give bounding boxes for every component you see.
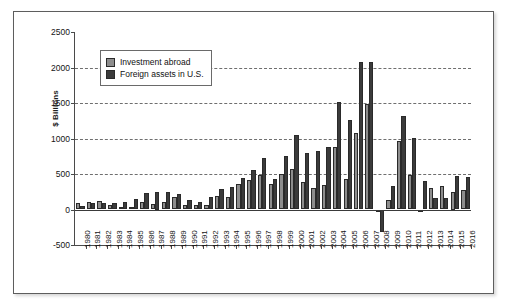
x-tick-label: 2009 (393, 230, 402, 248)
bar (284, 156, 288, 210)
x-tick-label: 2014 (446, 230, 455, 248)
legend-swatch-icon-foreign-assets (106, 70, 115, 79)
bar (177, 194, 181, 210)
bar (166, 192, 170, 209)
bar (102, 203, 106, 210)
bar (209, 197, 213, 209)
bar (230, 187, 234, 209)
bar-group (75, 32, 86, 245)
bar (144, 193, 148, 209)
y-tick-label: -500 (53, 240, 70, 250)
bar (412, 138, 416, 210)
bar-group (225, 32, 236, 245)
bar-group (460, 32, 471, 245)
bar-group (278, 32, 289, 245)
bar (380, 210, 384, 233)
y-tick-label: 1500 (51, 98, 70, 108)
x-tick-label: 1991 (200, 230, 209, 248)
y-tick-mark (71, 245, 75, 246)
bar-group (236, 32, 247, 245)
x-tick-label: 1984 (125, 230, 134, 248)
bar-group (268, 32, 279, 245)
x-tick-label: 2013 (436, 230, 445, 248)
x-tick-label: 1988 (168, 230, 177, 248)
chart-figure-frame: $ Billions -50005001000150020002500 1980… (13, 11, 494, 294)
x-tick-label: 1985 (136, 230, 145, 248)
bar (369, 62, 373, 210)
bar (219, 189, 223, 209)
bar (251, 170, 255, 209)
x-axis-labels: 1980198119821983198419851986198719881989… (74, 248, 470, 292)
bar (444, 198, 448, 209)
x-tick-label: 1993 (222, 230, 231, 248)
x-tick-label: 2011 (414, 231, 423, 248)
bar (348, 120, 352, 210)
bar (326, 147, 330, 210)
x-tick-label: 1994 (232, 230, 241, 248)
x-tick-label: 2007 (372, 230, 381, 248)
y-tick-label: 1000 (51, 134, 70, 144)
bar (187, 200, 191, 210)
x-tick-label: 2012 (425, 230, 434, 248)
bar-group (439, 32, 450, 245)
x-tick-label: 1995 (243, 230, 252, 248)
x-tick-label: 2008 (382, 230, 391, 248)
bar (123, 202, 127, 210)
x-tick-label: 1986 (147, 230, 156, 248)
legend-swatch-icon-investment-abroad (106, 58, 115, 67)
x-tick-label: 1987 (157, 230, 166, 248)
x-tick-label: 2015 (457, 230, 466, 248)
chart-legend: Investment abroad Foreign assets in U.S. (100, 50, 212, 86)
x-tick-label: 1989 (179, 230, 188, 248)
x-tick-label: 2000 (297, 230, 306, 248)
x-tick-label: 1983 (115, 230, 124, 248)
legend-item-investment-abroad: Investment abroad (106, 57, 204, 67)
bar-group (343, 32, 354, 245)
bar-group (332, 32, 343, 245)
x-tick-label: 2005 (350, 230, 359, 248)
y-tick-label: 0 (65, 205, 70, 215)
x-tick-label: 1981 (93, 230, 102, 248)
bar (155, 192, 159, 210)
legend-label-foreign-assets: Foreign assets in U.S. (120, 69, 204, 79)
bar-group (450, 32, 461, 245)
bar (455, 176, 459, 210)
bar-group (300, 32, 311, 245)
bar (134, 199, 138, 209)
bar-group (257, 32, 268, 245)
bar (337, 102, 341, 210)
bar (305, 153, 309, 209)
x-tick-label: 1999 (286, 230, 295, 248)
bar (241, 178, 245, 210)
bar-group (417, 32, 428, 245)
bar-group (353, 32, 364, 245)
bar (198, 202, 202, 210)
x-tick-label: 1982 (104, 230, 113, 248)
x-tick-label: 2001 (307, 230, 316, 248)
x-tick-label: 2002 (318, 230, 327, 248)
x-tick-label: 1992 (211, 230, 220, 248)
x-tick-label: 1996 (254, 230, 263, 248)
y-tick-label: 500 (56, 169, 70, 179)
bar-group (428, 32, 439, 245)
x-tick-label: 2003 (329, 230, 338, 248)
bar (423, 181, 427, 210)
y-tick-label: 2000 (51, 63, 70, 73)
x-tick-label: 2016 (468, 230, 477, 248)
bar (401, 116, 405, 210)
bar (273, 179, 277, 210)
legend-item-foreign-assets: Foreign assets in U.S. (106, 69, 204, 79)
x-tick-label: 1997 (264, 230, 273, 248)
bar-group (214, 32, 225, 245)
bar-group (310, 32, 321, 245)
x-tick-label: 1998 (275, 230, 284, 248)
x-tick-label: 2006 (361, 230, 370, 248)
bar-group (407, 32, 418, 245)
bar-group (364, 32, 375, 245)
bar (466, 177, 470, 210)
x-tick-label: 1980 (83, 230, 92, 248)
x-tick-label: 2004 (339, 230, 348, 248)
bar-group (385, 32, 396, 245)
bar (294, 135, 298, 210)
bar (433, 198, 437, 210)
